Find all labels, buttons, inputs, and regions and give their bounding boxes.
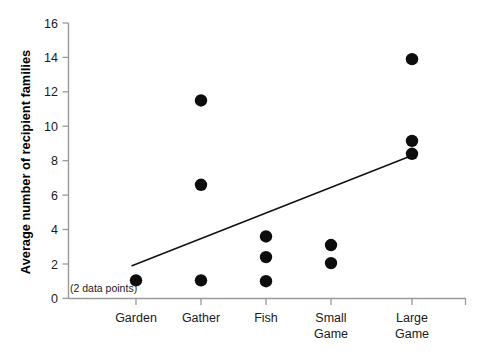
- x-tick-label-small-game-line1: Small: [315, 311, 346, 325]
- data-point: [325, 257, 337, 269]
- data-point: [260, 275, 272, 287]
- y-tick-label-6: 6: [51, 189, 58, 203]
- data-point: [325, 239, 337, 251]
- chart-canvas: Average number of recipient families 16 …: [0, 0, 488, 357]
- y-axis-title: Average number of recipient families: [18, 50, 33, 274]
- data-point: [195, 179, 207, 191]
- y-tick-label-14: 14: [44, 51, 58, 65]
- y-tick-label-8: 8: [51, 154, 58, 168]
- x-tick-label-large-game-line1: Large: [396, 311, 428, 325]
- y-tick-label-0: 0: [51, 292, 58, 306]
- x-axis-ticks: [136, 299, 466, 306]
- data-point: [406, 53, 418, 65]
- y-tick-label-4: 4: [51, 223, 58, 237]
- y-tick-label-10: 10: [44, 120, 58, 134]
- data-point: [195, 94, 207, 106]
- scatter-chart: Average number of recipient families 16 …: [0, 0, 488, 357]
- y-axis-ticks: 16 14 12 10 8 6 4 2 0: [44, 17, 68, 306]
- trend-line: [132, 156, 412, 266]
- y-tick-label-16: 16: [44, 17, 58, 31]
- x-axis-labels: Garden Gather Fish Small Game Large Game: [115, 311, 429, 341]
- data-point: [260, 230, 272, 242]
- data-point: [406, 135, 418, 147]
- data-point: [195, 274, 207, 286]
- y-tick-label-12: 12: [44, 85, 58, 99]
- annotation-two-data-points: (2 data points): [70, 282, 137, 294]
- x-tick-label-gather: Gather: [182, 311, 220, 325]
- data-point: [406, 148, 418, 160]
- y-tick-label-2: 2: [51, 258, 58, 272]
- data-point: [260, 251, 272, 263]
- x-tick-label-large-game-line2: Game: [395, 327, 429, 341]
- x-tick-label-small-game-line2: Game: [314, 327, 348, 341]
- x-tick-label-fish: Fish: [254, 311, 278, 325]
- x-tick-label-garden: Garden: [115, 311, 157, 325]
